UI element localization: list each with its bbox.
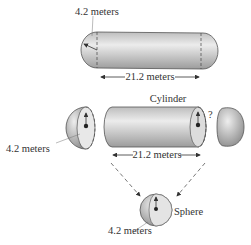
hemisphere-radius-label: 4.2 meters (6, 143, 50, 154)
capsule-top (81, 16, 218, 69)
sphere-label: Sphere (174, 206, 203, 217)
right-converging-arrow (177, 163, 205, 196)
unknown-radius-question-mark: ? (208, 109, 213, 120)
left-hemisphere (56, 107, 95, 149)
top-length-label: 21.2 meters (126, 71, 175, 82)
left-converging-arrow (111, 163, 140, 196)
cylinder-label: Cylinder (150, 93, 187, 104)
right-hemisphere (217, 108, 244, 147)
center-dot (84, 124, 88, 128)
cylinder (104, 107, 206, 147)
sphere-center-dot (154, 207, 158, 211)
capsule-decomposition-diagram: 4.2 meters 21.2 meters 4.2 meters Cylind… (0, 0, 251, 245)
top-radius-label: 4.2 meters (75, 6, 119, 17)
sphere-radius-label: 4.2 meters (108, 225, 152, 236)
middle-length-label: 21.2 meters (133, 149, 182, 160)
cylinder-center-dot (196, 123, 200, 127)
